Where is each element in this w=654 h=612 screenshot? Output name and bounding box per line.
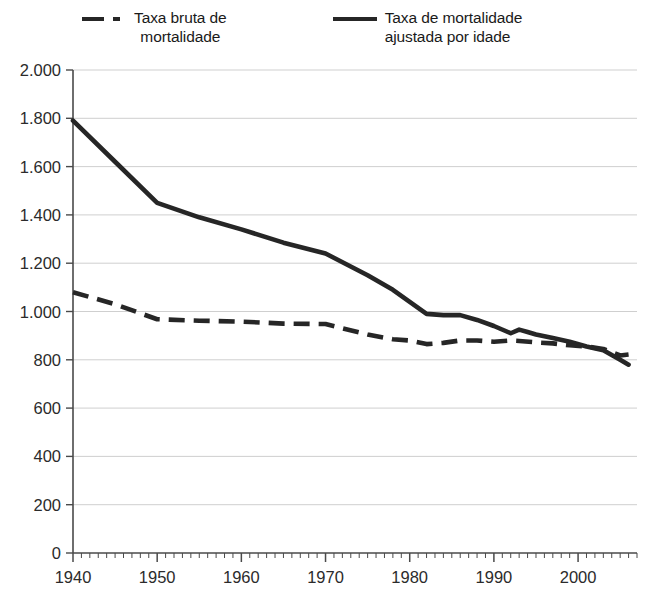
y-axis-tick-label: 1.800	[20, 109, 61, 127]
y-axis-tick-label: 1.000	[20, 303, 61, 321]
x-axis-tick-label: 1970	[307, 568, 344, 586]
y-axis-tick-label: 1.400	[20, 206, 61, 224]
x-axis-tick-label: 1940	[55, 568, 92, 586]
x-axis-tick-label: 1980	[391, 568, 428, 586]
y-axis-tick-labels: 02004006008001.0001.2001.4001.6001.8002.…	[20, 61, 61, 562]
y-axis-tick-label: 2.000	[20, 61, 61, 79]
y-gridlines	[73, 70, 637, 505]
x-axis-tick-labels: 1940195019601970198019902000	[55, 568, 597, 586]
mortality-rate-line-chart: Taxa bruta de mortalidade Taxa de mortal…	[0, 0, 654, 612]
y-axis-tick-label: 1.600	[20, 158, 61, 176]
x-axis-tick-label: 1990	[476, 568, 513, 586]
x-axis-minor-ticks	[73, 553, 637, 562]
x-axis-tick-label: 1960	[223, 568, 260, 586]
x-axis-tick-label: 1950	[139, 568, 176, 586]
series-line-taxa-bruta	[73, 292, 629, 355]
y-axis-tick-label: 0	[52, 544, 61, 562]
y-axis-tick-label: 400	[33, 447, 61, 465]
y-axis-tick-label: 600	[33, 399, 61, 417]
y-axis-tick-label: 200	[33, 496, 61, 514]
y-axis-tick-label: 1.200	[20, 254, 61, 272]
y-axis-ticks	[66, 70, 73, 553]
x-axis-tick-label: 2000	[560, 568, 597, 586]
chart-plot-area: 02004006008001.0001.2001.4001.6001.8002.…	[0, 0, 654, 612]
y-axis-tick-label: 800	[33, 351, 61, 369]
